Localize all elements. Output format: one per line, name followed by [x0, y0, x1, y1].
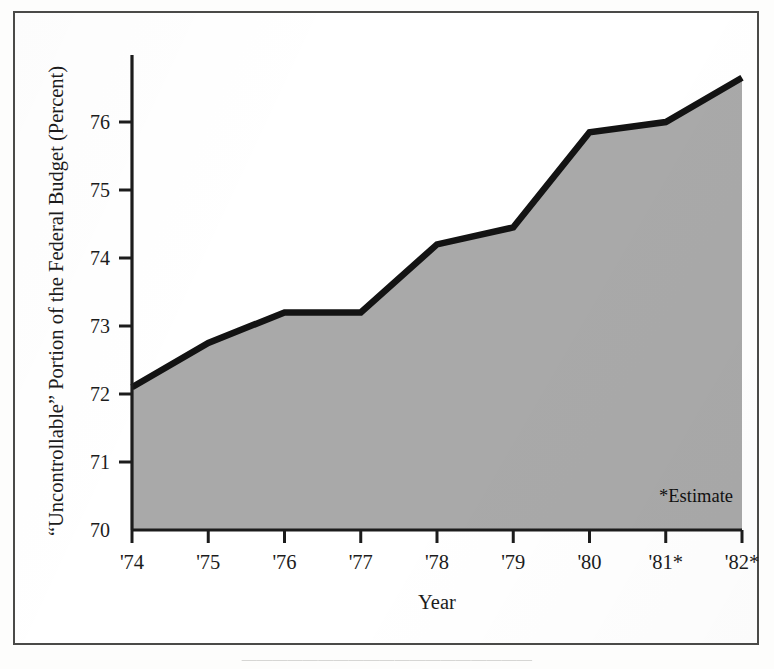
- figure-frame: 70717273747576 '74'75'76'77'78'79'80'81*…: [13, 11, 759, 645]
- y-tick-label: 70: [90, 519, 110, 541]
- y-tick-label: 75: [90, 179, 110, 201]
- y-tick-label: 72: [90, 383, 110, 405]
- y-axis-title: “Uncontrollable” Portion of the Federal …: [45, 66, 68, 536]
- x-tick-label: '74: [120, 551, 144, 573]
- line-area-chart: 70717273747576 '74'75'76'77'78'79'80'81*…: [15, 13, 761, 647]
- x-tick-label: '75: [196, 551, 220, 573]
- x-tick-label: '79: [501, 551, 525, 573]
- x-tick-label: '78: [425, 551, 449, 573]
- area-fill: [132, 78, 742, 530]
- x-axis-title: Year: [418, 591, 456, 613]
- y-tick-label: 71: [90, 451, 110, 473]
- x-tick-label: '80: [577, 551, 601, 573]
- y-tick-label: 74: [90, 247, 110, 269]
- x-tick-label: '82*: [725, 551, 759, 573]
- x-tick-label: '81*: [649, 551, 683, 573]
- estimate-footnote: *Estimate: [659, 486, 733, 506]
- x-axis-ticks: '74'75'76'77'78'79'80'81*'82*: [120, 530, 759, 573]
- y-tick-label: 76: [90, 111, 110, 133]
- figure-page: 70717273747576 '74'75'76'77'78'79'80'81*…: [0, 0, 774, 669]
- cutoff-caption-text: ———————————————————: [22, 655, 752, 668]
- y-tick-label: 73: [90, 315, 110, 337]
- y-axis-ticks: 70717273747576: [90, 111, 132, 541]
- x-tick-label: '76: [272, 551, 296, 573]
- x-tick-label: '77: [349, 551, 373, 573]
- cutoff-caption: ———————————————————: [22, 655, 752, 669]
